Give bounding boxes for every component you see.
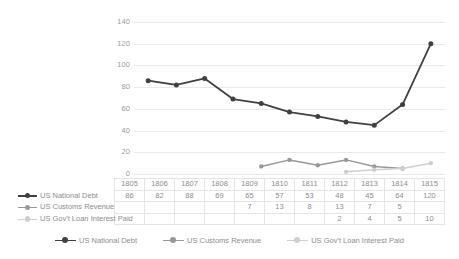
table-year-header-1815: 1815 <box>415 179 445 191</box>
table-cell-2-1811 <box>295 213 325 225</box>
table-year-header-1811: 1811 <box>295 179 325 191</box>
table-cell-1-1813: 7 <box>355 202 385 214</box>
table-cell-1-1805 <box>115 202 145 214</box>
data-point-1-3 <box>344 158 348 162</box>
table-cell-0-1813: 45 <box>355 190 385 202</box>
data-point-0-9 <box>400 102 405 107</box>
table-corner-cell <box>14 179 115 191</box>
data-point-0-1 <box>174 82 179 87</box>
table-year-header-1810: 1810 <box>265 179 295 191</box>
table-cell-0-1806: 82 <box>145 190 175 202</box>
table-cell-0-1815: 120 <box>415 190 445 202</box>
table-cell-0-1811: 53 <box>295 190 325 202</box>
data-point-0-10 <box>428 41 433 46</box>
series-marker-icon <box>18 192 37 199</box>
table-row: US National Debt86828869655753484564120 <box>14 190 445 202</box>
series-line-1 <box>261 160 402 169</box>
table-year-header-1814: 1814 <box>385 179 415 191</box>
data-point-0-4 <box>259 101 264 106</box>
data-point-1-0 <box>259 164 263 168</box>
table-cell-1-1808 <box>205 202 235 214</box>
table-cell-2-1814: 5 <box>385 213 415 225</box>
legend-marker-icon <box>287 237 308 245</box>
table-cell-2-1810 <box>265 213 295 225</box>
table-cell-2-1812: 2 <box>325 213 355 225</box>
table-year-header-1806: 1806 <box>145 179 175 191</box>
table-series-key-0: US National Debt <box>14 190 115 202</box>
data-point-1-1 <box>287 158 291 162</box>
table-row: US Gov't Loan Interest Paid24510 <box>14 213 445 225</box>
data-point-0-0 <box>146 78 151 83</box>
table-cell-2-1808 <box>205 213 235 225</box>
series-marker-icon <box>18 204 37 211</box>
legend-item-0[interactable]: US National Debt <box>55 236 137 245</box>
data-point-2-1 <box>372 167 376 171</box>
table-cell-0-1808: 69 <box>205 190 235 202</box>
table-year-header-1812: 1812 <box>325 179 355 191</box>
table-cell-0-1809: 65 <box>235 190 265 202</box>
table-cell-1-1815 <box>415 202 445 214</box>
table-cell-1-1811: 8 <box>295 202 325 214</box>
data-point-0-6 <box>315 114 320 119</box>
legend-item-1[interactable]: US Customs Revenue <box>163 236 261 245</box>
table-cell-1-1814: 5 <box>385 202 415 214</box>
table-series-key-1: US Customs Revenue <box>14 202 115 214</box>
data-point-0-8 <box>372 123 377 128</box>
table-row: US Customs Revenue71381375 <box>14 202 445 214</box>
table-cell-0-1814: 64 <box>385 190 415 202</box>
table-cell-2-1807 <box>175 213 205 225</box>
plot-area: 140120100806040200 <box>0 0 459 178</box>
table-cell-0-1807: 88 <box>175 190 205 202</box>
table-cell-2-1809 <box>235 213 265 225</box>
legend-label: US Gov't Loan Interest Paid <box>311 236 404 245</box>
series-marker-icon <box>18 216 37 223</box>
table-cell-0-1812: 48 <box>325 190 355 202</box>
data-point-0-7 <box>344 119 349 124</box>
data-point-0-5 <box>287 110 292 115</box>
legend-label: US National Debt <box>79 236 137 245</box>
table-cell-2-1813: 4 <box>355 213 385 225</box>
table-cell-1-1806 <box>145 202 175 214</box>
data-point-2-2 <box>400 166 404 170</box>
table-cell-1-1812: 13 <box>325 202 355 214</box>
table-year-header-1805: 1805 <box>115 179 145 191</box>
series-lines <box>0 0 459 178</box>
table-cell-2-1815: 10 <box>415 213 445 225</box>
table-cell-1-1809: 7 <box>235 202 265 214</box>
table-year-header-1807: 1807 <box>175 179 205 191</box>
legend-marker-icon <box>55 237 76 245</box>
table-row-years: 1805180618071808180918101811181218131814… <box>14 179 445 191</box>
chart-legend: US National DebtUS Customs RevenueUS Gov… <box>0 236 459 245</box>
table-series-label: US National Debt <box>40 191 98 202</box>
table-cell-1-1807 <box>175 202 205 214</box>
table-year-header-1813: 1813 <box>355 179 385 191</box>
data-point-2-0 <box>344 170 348 174</box>
data-point-2-3 <box>429 161 433 165</box>
line-chart-with-data-table: 140120100806040200 180518061807180818091… <box>0 0 459 259</box>
data-point-0-3 <box>230 97 235 102</box>
legend-label: US Customs Revenue <box>187 236 261 245</box>
data-point-0-2 <box>202 76 207 81</box>
table-year-header-1808: 1808 <box>205 179 235 191</box>
legend-marker-icon <box>163 237 184 245</box>
table-cell-0-1810: 57 <box>265 190 295 202</box>
table-series-label: US Gov't Loan Interest Paid <box>40 214 133 225</box>
table-series-key-2: US Gov't Loan Interest Paid <box>14 213 115 225</box>
table-cell-2-1806 <box>145 213 175 225</box>
legend-item-2[interactable]: US Gov't Loan Interest Paid <box>287 236 404 245</box>
chart-data-table: 1805180618071808180918101811181218131814… <box>14 178 445 225</box>
table-year-header-1809: 1809 <box>235 179 265 191</box>
table-cell-0-1805: 86 <box>115 190 145 202</box>
data-point-1-2 <box>316 163 320 167</box>
table-cell-1-1810: 13 <box>265 202 295 214</box>
table-series-label: US Customs Revenue <box>40 202 114 213</box>
